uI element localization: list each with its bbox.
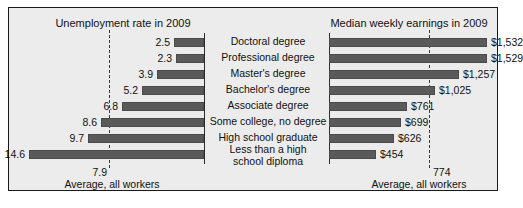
unemployment-bar [142, 86, 204, 95]
unemployment-value-label: 2.5 [126, 36, 170, 49]
unemployment-bar [88, 134, 204, 143]
earnings-bar [329, 150, 376, 159]
chart-row: 8.6Some college, no degree$699 [9, 115, 497, 131]
unemployment-bar [174, 38, 204, 47]
earnings-bar [329, 134, 394, 143]
earnings-value-label: $761 [411, 100, 434, 113]
chart-row: 14.6Less than a high school diploma$454 [9, 147, 497, 163]
left-chart-title: Unemployment rate in 2009 [23, 17, 223, 29]
earnings-bar [329, 102, 407, 111]
category-label: Doctoral degree [209, 35, 327, 47]
category-label: Some college, no degree [209, 115, 327, 127]
unemployment-value-label: 5.2 [94, 84, 138, 97]
earnings-value-label: $1,257 [463, 68, 495, 81]
earnings-value-label: $1,532 [491, 36, 523, 49]
unemployment-bar [122, 102, 204, 111]
chart-panel: Unemployment rate in 2009 Median weekly … [8, 7, 498, 191]
unemployment-value-label: 2.3 [128, 52, 172, 65]
category-label: Associate degree [209, 99, 327, 111]
unemployment-value-label: 14.6 [0, 148, 25, 161]
earnings-value-label: $626 [398, 132, 421, 145]
unemployment-bar [157, 70, 204, 79]
earnings-bar [329, 54, 487, 63]
right-chart-title: Median weekly earnings in 2009 [319, 17, 499, 29]
earnings-value-label: $454 [380, 148, 403, 161]
chart-row: 6.8Associate degree$761 [9, 99, 497, 115]
chart-row: 3.9Master's degree$1,257 [9, 67, 497, 83]
unemployment-value-label: 6.8 [74, 100, 118, 113]
unemployment-value-label: 9.7 [40, 132, 84, 145]
unemployment-value-label: 3.9 [109, 68, 153, 81]
unemployment-bar [29, 150, 204, 159]
earnings-bar [329, 70, 459, 79]
earnings-bar [329, 86, 435, 95]
category-label: High school graduate [209, 131, 327, 143]
category-label: Master's degree [209, 67, 327, 79]
left-average-value: 7.9 [71, 166, 107, 178]
earnings-bar [329, 38, 487, 47]
right-average-label: Average, all workers [339, 178, 499, 190]
unemployment-bar [176, 54, 204, 63]
category-label: Bachelor's degree [209, 83, 327, 95]
chart-row: 2.3Professional degree$1,529 [9, 51, 497, 67]
left-average-label: Average, all workers [19, 178, 205, 190]
unemployment-bar [101, 118, 204, 127]
chart-row: 2.5Doctoral degree$1,532 [9, 35, 497, 51]
category-label: Professional degree [209, 51, 327, 63]
earnings-value-label: $1,025 [439, 84, 471, 97]
right-average-value: 774 [433, 166, 473, 178]
earnings-value-label: $1,529 [491, 52, 523, 65]
earnings-bar [329, 118, 401, 127]
unemployment-value-label: 8.6 [53, 116, 97, 129]
category-label: Less than a high school diploma [209, 143, 327, 167]
earnings-value-label: $699 [405, 116, 428, 129]
chart-row: 5.2Bachelor's degree$1,025 [9, 83, 497, 99]
